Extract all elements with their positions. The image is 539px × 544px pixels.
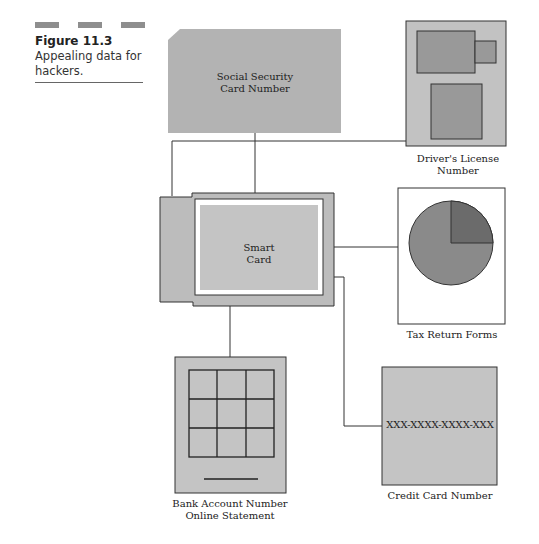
social-security-card-node: Social Security Card Number [168,29,341,133]
smart-card-node: Smart Card [160,193,334,306]
credit-card-number: XXX-XXXX-XXXX-XXX [386,419,495,430]
license-chip-icon [475,41,496,63]
smart-card-label-line1: Smart [243,242,274,253]
drivers-license-label-line2: Number [437,165,479,176]
bank-account-label-line1: Bank Account Number [172,498,288,509]
credit-card-node: XXX-XXXX-XXXX-XXX Credit Card Number [382,367,497,501]
tax-return-node: Tax Return Forms [398,188,505,340]
bank-account-node: Bank Account Number Online Statement [172,357,288,521]
smart-card-label-line2: Card [247,254,272,265]
social-security-label-line2: Card Number [220,83,290,94]
bank-statement-shape [175,357,286,493]
drivers-license-label-line1: Driver's License [417,153,499,164]
bank-account-label-line2: Online Statement [185,510,274,521]
license-photo-icon [417,31,475,73]
tax-return-label: Tax Return Forms [407,329,498,340]
social-security-label-line1: Social Security [217,71,294,82]
credit-card-label: Credit Card Number [388,490,493,501]
diagram-canvas: Social Security Card Number Driver's Lic… [0,0,539,544]
drivers-license-node: Driver's License Number [406,21,506,176]
license-block-icon [431,84,482,139]
